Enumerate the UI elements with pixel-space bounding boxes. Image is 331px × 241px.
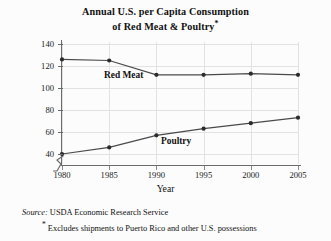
x-axis-tick-label: 1995 (184, 170, 224, 180)
data-point-marker (154, 133, 158, 137)
data-point-marker (107, 145, 111, 149)
data-point-marker (296, 73, 300, 77)
y-axis-tick (58, 110, 63, 111)
x-axis-tick-label: 1990 (136, 170, 176, 180)
data-point-marker (296, 116, 300, 120)
x-axis-tick-label: 2005 (278, 170, 318, 180)
x-axis-tick-label: 1980 (42, 170, 82, 180)
y-axis-tick-label: 40 (28, 149, 54, 159)
excludes-note: * Excludes shipments to Puerto Rico and … (42, 220, 257, 233)
y-axis-tick (58, 66, 63, 67)
x-axis-tick-label: 1985 (89, 170, 129, 180)
footnote-asterisk-icon: * (42, 220, 46, 229)
series-layer (0, 0, 331, 241)
source-note: Source: USDA Economic Research Service (22, 208, 168, 217)
series-line-red-meat (62, 59, 298, 74)
y-axis-tick-label: 60 (28, 127, 54, 137)
y-axis-tick (58, 154, 63, 155)
y-axis-tick-label: 120 (28, 61, 54, 71)
source-text: USDA Economic Research Service (50, 208, 168, 217)
chart-figure: Annual U.S. per Capita Consumption of Re… (0, 0, 331, 241)
data-point-marker (154, 73, 158, 77)
series-label-poultry: Poultry (161, 136, 191, 146)
y-axis-tick-label: 80 (28, 105, 54, 115)
series-label-red-meat: Red Meat (104, 70, 143, 80)
source-label: Source: (22, 208, 48, 217)
data-point-marker (249, 121, 253, 125)
y-axis-tick-label: 140 (28, 39, 54, 49)
y-axis-tick (58, 132, 63, 133)
y-axis-tick-label: 100 (28, 83, 54, 93)
y-axis-tick (58, 44, 63, 45)
excludes-text: Excludes shipments to Puerto Rico and ot… (48, 224, 257, 233)
x-axis-tick-label: 2000 (231, 170, 271, 180)
data-point-marker (107, 58, 111, 62)
y-axis-tick (58, 88, 63, 89)
data-point-marker (249, 72, 253, 76)
data-point-marker (202, 127, 206, 131)
data-point-marker (60, 57, 64, 61)
data-point-marker (202, 73, 206, 77)
